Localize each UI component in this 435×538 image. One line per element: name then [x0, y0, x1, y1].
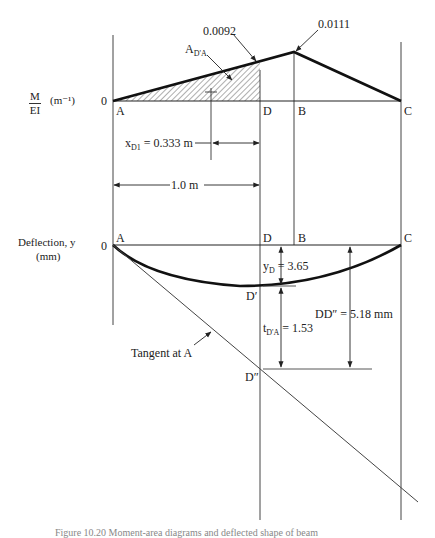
tDA-value: = 1.53: [282, 321, 313, 335]
moment-point-A: A: [116, 105, 125, 117]
leader-tangent: [194, 332, 211, 345]
area-ADA-label: AD'A: [185, 43, 207, 58]
moment-axis-denominator: EI: [29, 104, 41, 116]
deflection-curve: [113, 245, 401, 286]
tDA-label: tD'A = 1.53: [263, 322, 313, 337]
span-length-label: 1.0 m: [171, 179, 198, 191]
deflection-point-A: A: [116, 232, 125, 244]
deflection-point-D: D: [263, 232, 272, 244]
point-D-prime: D′: [246, 290, 257, 302]
deflection-axis-label-line2: (mm): [36, 251, 60, 262]
area-label-main: A: [185, 42, 194, 56]
moment-axis-numerator: M: [29, 91, 41, 104]
moment-point-B: B: [298, 105, 306, 117]
point-D-double-prime: D″: [245, 371, 259, 383]
figure-caption: Figure 10.20 Moment-area diagrams and de…: [55, 527, 318, 538]
yD-sub: D: [269, 266, 275, 275]
centroid-label-sub: D1: [131, 143, 141, 152]
yD-label: yD = 3.65: [263, 260, 309, 275]
moment-point-C: C: [404, 105, 412, 117]
moment-point-D: D: [263, 105, 272, 117]
tangent-at-A-line: [113, 245, 418, 502]
moment-zero-label: 0: [101, 95, 107, 107]
DD-double-prime-label: DD″ = 5.18 mm: [315, 308, 393, 320]
centroid-value: = 0.333 m: [144, 136, 193, 150]
tDA-sub: D'A: [266, 328, 279, 337]
deflection-point-C: C: [404, 232, 412, 244]
deflection-point-B: B: [298, 232, 306, 244]
value-at-B-label: 0.0111: [318, 18, 350, 30]
area-label-sub: D'A: [194, 49, 207, 58]
centroid-distance-label: xD1 = 0.333 m: [125, 137, 193, 152]
leader-0.0111: [296, 30, 318, 51]
moment-axis-label: M EI: [29, 91, 41, 116]
deflection-axis-label-line1: Deflection, y: [18, 237, 75, 248]
moment-axis-unit: (m⁻¹): [50, 95, 75, 106]
deflection-zero-label: 0: [101, 240, 107, 252]
yD-value: = 3.65: [278, 259, 309, 273]
leader-0.0092: [233, 34, 256, 61]
value-at-D-label: 0.0092: [203, 25, 236, 37]
tangent-at-A-label: Tangent at A: [131, 347, 192, 359]
